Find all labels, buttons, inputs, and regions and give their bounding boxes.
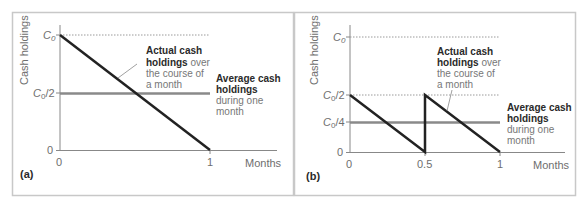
y-tick-c0-b: C0 [333, 31, 346, 45]
svg-text:during one: during one [507, 124, 555, 135]
y-tick-c0half-a: C0/2 [33, 87, 55, 101]
svg-text:during one: during one [216, 95, 264, 106]
annotation-average-b: Average cash holdings during one month [507, 102, 572, 146]
x-tick-0-a: 0 [56, 156, 62, 168]
x-tick-0-b: 0 [346, 158, 352, 170]
panel-b: Cash holdings C0 C0/2 C0/4 0 0 0.5 1 Mon… [306, 15, 572, 182]
svg-text:month: month [216, 106, 244, 117]
y-axis-label-b: Cash holdings [308, 15, 320, 85]
svg-text:Average cash: Average cash [216, 73, 281, 84]
y-tick-zero-a: 0 [47, 144, 53, 156]
svg-text:month: month [507, 135, 535, 146]
annotation-actual-a: Actual cash holdings over the course of … [146, 45, 211, 90]
y-tick-zero-b: 0 [337, 146, 343, 158]
panel-a: Cash holdings C0 C0/2 0 0 1 Months (a) A… [18, 15, 282, 180]
leader-line-b [447, 90, 452, 111]
svg-text:holdings over: holdings over [146, 57, 211, 68]
figure: Cash holdings C0 C0/2 0 0 1 Months (a) A… [0, 0, 588, 206]
x-axis-label-b: Months [533, 159, 570, 171]
panel-label-a: (a) [20, 168, 34, 180]
y-axis-label-a: Cash holdings [18, 15, 30, 85]
annotation-average-a: Average cash holdings during one month [216, 73, 281, 117]
x-tick-1-b: 1 [497, 158, 503, 170]
x-tick-1-a: 1 [207, 156, 213, 168]
svg-text:holdings: holdings [507, 113, 549, 124]
y-tick-c0half-b: C0/2 [323, 89, 345, 103]
x-axis-label-a: Months [245, 157, 282, 169]
svg-text:Actual cash: Actual cash [146, 45, 202, 56]
svg-text:a month: a month [146, 79, 182, 90]
svg-text:holdings over: holdings over [437, 57, 502, 68]
svg-text:the course of: the course of [437, 68, 495, 79]
svg-text:holdings: holdings [216, 84, 258, 95]
y-tick-c0quarter-b: C0/4 [323, 116, 345, 130]
annotation-actual-b: Actual cash holdings over the course of … [437, 46, 502, 90]
y-tick-c0-a: C0 [43, 29, 56, 43]
x-tick-05-b: 0.5 [417, 158, 432, 170]
leader-line-a [118, 64, 137, 78]
svg-text:Actual cash: Actual cash [437, 46, 493, 57]
svg-text:Average cash: Average cash [507, 102, 572, 113]
svg-text:a month: a month [437, 79, 473, 90]
svg-text:the course of: the course of [146, 68, 204, 79]
panel-label-b: (b) [306, 170, 320, 182]
